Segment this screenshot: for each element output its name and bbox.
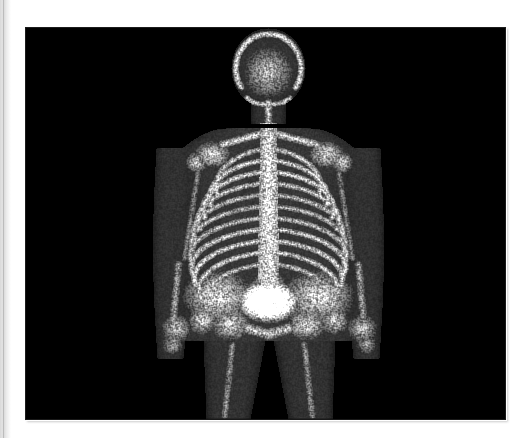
page-background <box>0 0 532 438</box>
bone-scan-image-frame <box>26 28 505 419</box>
scanned-page-edge-gradient <box>0 0 11 438</box>
bone-scan-scintigram <box>26 28 505 419</box>
scanned-page-edge-line <box>3 0 4 438</box>
